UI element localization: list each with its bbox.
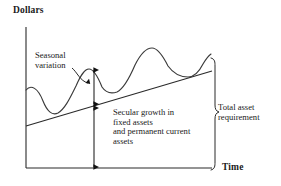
x-axis-label: Time	[222, 162, 244, 173]
figure-canvas	[0, 0, 281, 186]
y-axis-label: Dollars	[13, 5, 44, 16]
asset-requirement-figure: Dollars Time Seasonal variation Secular …	[0, 0, 281, 186]
seasonal-variation-label: Seasonal variation	[35, 51, 66, 70]
secular-growth-label: Secular growth in fixed assets and perma…	[113, 108, 190, 147]
total-asset-requirement-label: Total asset requirement	[218, 103, 260, 122]
